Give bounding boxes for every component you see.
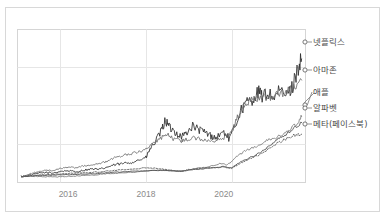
- chart-figure: 201620182020 넷플릭스아마존애플알파벳메타(페이스북): [0, 0, 386, 223]
- series-label-2: 아마존: [313, 65, 337, 75]
- series-label-1: 넷플릭스: [313, 37, 345, 47]
- series-end-marker: [303, 68, 307, 72]
- series-label-4: 알파벳: [313, 103, 337, 113]
- x-tick-label: 2016: [59, 189, 78, 199]
- x-tick-label: 2018: [136, 189, 155, 199]
- series-end-marker: [303, 40, 307, 44]
- series-end-marker: [303, 122, 307, 126]
- line-chart: 201620182020 넷플릭스아마존애플알파벳메타(페이스북): [0, 0, 386, 223]
- x-tick-label: 2020: [214, 189, 233, 199]
- series-label-5: 메타(페이스북): [313, 119, 368, 129]
- series-end-marker: [303, 106, 307, 110]
- series-text-labels: 넷플릭스아마존애플알파벳메타(페이스북): [313, 37, 368, 129]
- series-label-3: 애플: [313, 87, 329, 97]
- x-axis-tick-labels: 201620182020: [59, 189, 234, 199]
